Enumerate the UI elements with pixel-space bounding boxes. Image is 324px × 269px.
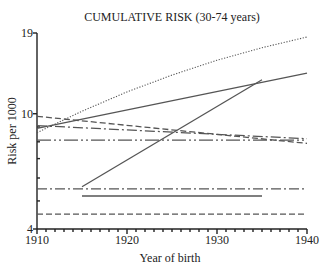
chart: CUMULATIVE RISK (30-74 years) 19 10 4 19… — [0, 0, 324, 269]
x-tick-1910: 1910 — [25, 233, 49, 247]
series-long-dash-upper — [37, 116, 307, 143]
y-tick-labels: 19 10 4 — [21, 26, 33, 236]
x-axis-label: Year of birth — [140, 251, 201, 265]
y-tick-19: 19 — [21, 26, 33, 40]
plot-lines — [37, 37, 307, 214]
series-dotted — [37, 37, 307, 133]
chart-title: CUMULATIVE RISK (30-74 years) — [84, 10, 260, 24]
series-dash-dot-upper — [37, 126, 307, 139]
x-tick-1920: 1920 — [115, 233, 139, 247]
series-solid-diagonal — [82, 80, 262, 187]
x-tick-1930: 1930 — [205, 233, 229, 247]
x-tick-1940: 1940 — [295, 233, 319, 247]
axes — [33, 33, 307, 234]
x-tick-labels: 1910 1920 1930 1940 — [25, 233, 319, 247]
y-axis-label: Risk per 1000 — [5, 97, 19, 164]
y-tick-10: 10 — [21, 107, 33, 121]
